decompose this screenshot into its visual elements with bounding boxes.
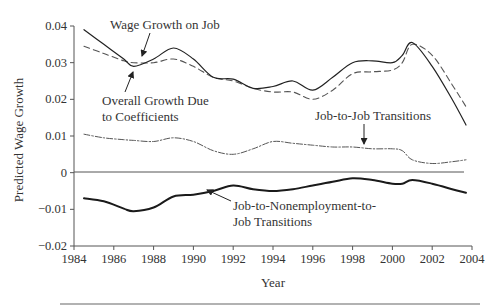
x-axis: 1984198619881990199219941996199820002002… xyxy=(62,246,486,266)
x-tick-label: 1996 xyxy=(300,252,325,266)
annotation-job-to-nonemployment: Job-to-Nonemployment-to- Job Transitions xyxy=(207,190,376,229)
annotation-overall-growth: Overall Growth Due to Coefficients xyxy=(102,72,209,124)
x-tick-label: 1986 xyxy=(101,252,126,266)
arrow-icon xyxy=(207,190,231,201)
x-tick-label: 2000 xyxy=(380,252,405,266)
arrow-icon xyxy=(125,72,133,92)
y-tick-label: 0.01 xyxy=(45,129,67,143)
x-axis-ticks: 1984198619881990199219941996199820002002… xyxy=(62,246,486,266)
annotation-label: Job-to-Job Transitions xyxy=(315,108,431,123)
x-tick-label: 1998 xyxy=(340,252,365,266)
y-tick-label: 0 xyxy=(61,166,67,180)
x-tick-label: 1992 xyxy=(221,252,246,266)
annotation-job-to-job: Job-to-Job Transitions xyxy=(315,108,431,144)
y-axis: 0.040.030.020.010−0.01−0.02 xyxy=(38,19,74,253)
y-tick-label: 0.02 xyxy=(45,92,67,106)
annotation-label: Overall Growth Due xyxy=(102,93,209,108)
y-axis-title: Predicted Wage Growth xyxy=(11,77,26,202)
x-tick-label: 1994 xyxy=(261,252,287,266)
y-tick-label: 0.04 xyxy=(45,19,68,33)
x-tick-label: 2004 xyxy=(460,252,486,266)
y-tick-label: −0.02 xyxy=(38,239,67,253)
y-tick-label: 0.03 xyxy=(45,56,67,70)
x-tick-label: 1984 xyxy=(62,252,88,266)
y-tick-label: −0.01 xyxy=(38,202,67,216)
x-tick-label: 2002 xyxy=(420,252,445,266)
annotation-wage-growth: Wage Growth on Job xyxy=(110,17,220,56)
annotation-label: Wage Growth on Job xyxy=(110,17,220,32)
line-chart: 0.040.030.020.010−0.01−0.02 198419861988… xyxy=(0,0,495,306)
annotation-label: to Coefficients xyxy=(102,109,179,124)
arrow-icon xyxy=(142,33,150,56)
x-tick-label: 1988 xyxy=(141,252,166,266)
annotation-label: Job-to-Nonemployment-to- xyxy=(233,198,376,213)
x-tick-label: 1990 xyxy=(181,252,206,266)
annotation-label: Job Transitions xyxy=(233,214,312,229)
series-job-to-job-transitions xyxy=(84,134,466,163)
x-axis-title: Year xyxy=(261,275,286,290)
y-axis-ticks: 0.040.030.020.010−0.01−0.02 xyxy=(38,19,74,253)
